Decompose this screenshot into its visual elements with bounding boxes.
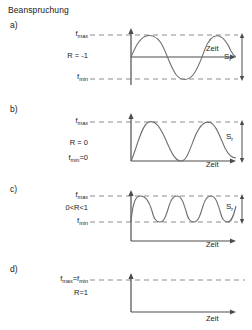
panel-c-plot xyxy=(0,170,252,252)
panel-a: a) fmax R = -1 fmin Zeit Sr xyxy=(0,0,252,88)
panel-c-bracket-arrow-bottom xyxy=(240,219,244,224)
panel-c-bracket-arrow-top xyxy=(240,194,244,199)
panel-b-bracket-arrow-top xyxy=(240,120,244,125)
panel-c-x-axis-arrow xyxy=(230,238,236,243)
panel-d-x-axis-arrow xyxy=(230,309,236,314)
panel-d-plot xyxy=(0,252,252,330)
panel-b-curve xyxy=(131,122,236,161)
panel-c-y-axis-arrow xyxy=(128,190,133,196)
panel-c-curve xyxy=(131,196,236,222)
panel-a-y-axis-arrow xyxy=(128,28,133,34)
panel-a-bracket-arrow-bottom xyxy=(240,76,244,81)
panel-a-bracket-arrow-top xyxy=(240,33,244,38)
panel-a-plot xyxy=(0,0,252,88)
panel-b: b) fmax R = 0 fmin=0 Zeit Sr xyxy=(0,88,252,170)
panel-d-y-axis-arrow xyxy=(128,273,133,279)
panel-b-y-axis-arrow xyxy=(128,113,133,119)
panel-d: d) fmax=fmin R=1 Zeit xyxy=(0,252,252,330)
panel-b-plot xyxy=(0,88,252,170)
panel-c: c) fmax 0<R<1 fmin Zeit Sr xyxy=(0,170,252,252)
panel-b-bracket-arrow-bottom xyxy=(240,158,244,163)
panel-b-x-axis-arrow xyxy=(230,158,236,163)
